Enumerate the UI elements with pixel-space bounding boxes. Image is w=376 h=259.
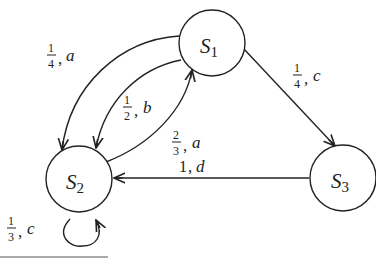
state-s3: S3 <box>310 145 376 211</box>
state-s1: S1 <box>179 10 245 76</box>
svg-text:,: , <box>134 101 138 120</box>
svg-text:1: 1 <box>294 61 300 75</box>
svg-text:4: 4 <box>48 57 54 71</box>
svg-text:a: a <box>66 46 75 65</box>
svg-text:,: , <box>304 69 308 88</box>
svg-text:3: 3 <box>8 230 14 244</box>
svg-text:4: 4 <box>294 77 300 91</box>
label-s2-s1: 2 3 , a <box>172 128 201 158</box>
label-s1-s2-outer: 1 4 , a <box>47 41 75 71</box>
edge-s1-s3 <box>243 48 335 146</box>
edge-s1-s2-outer <box>62 36 179 150</box>
svg-text:,: , <box>183 136 187 155</box>
svg-text:a: a <box>192 133 201 152</box>
svg-text:2: 2 <box>173 128 179 142</box>
label-s1-s3: 1 4 , c <box>293 61 321 91</box>
edge-s1-s2-inner <box>96 60 181 148</box>
edge-s2-self-loop <box>64 219 99 246</box>
svg-text:2: 2 <box>124 109 130 123</box>
svg-text:,: , <box>188 157 192 176</box>
label-s2-self-loop: 1 3 , c <box>7 214 35 244</box>
state-diagram: S1 S2 S3 1 4 , a 1 2 , b 2 3 , a 1 4 , c <box>0 0 376 259</box>
state-s2: S2 <box>46 146 112 212</box>
label-s1-s2-inner: 1 2 , b <box>123 93 152 123</box>
svg-text:,: , <box>58 49 62 68</box>
svg-text:c: c <box>313 66 321 85</box>
svg-text:1: 1 <box>179 158 187 175</box>
svg-text:1: 1 <box>48 41 54 55</box>
svg-text:1: 1 <box>8 214 14 228</box>
label-s3-s2: 1 , d <box>179 157 205 176</box>
svg-text:c: c <box>27 219 35 238</box>
svg-text:,: , <box>18 222 22 241</box>
svg-text:b: b <box>143 98 152 117</box>
svg-text:3: 3 <box>173 144 179 158</box>
svg-text:d: d <box>196 157 205 176</box>
svg-text:1: 1 <box>124 93 130 107</box>
